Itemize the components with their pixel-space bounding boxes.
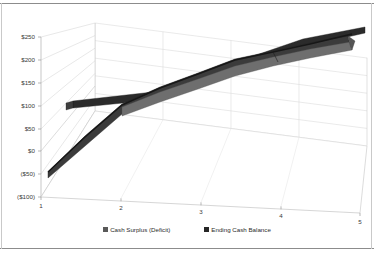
y-tick-label: $50: [25, 125, 36, 132]
x-tick-label: 1: [39, 202, 43, 209]
y-tick-label: $200: [21, 56, 35, 63]
legend-swatch-icon: [103, 227, 108, 232]
x-tick-label: 2: [119, 204, 123, 211]
y-tick-label: $150: [21, 79, 35, 86]
legend-label: Cash Surplus (Deficit): [110, 227, 170, 233]
y-tick-label: $0: [28, 147, 35, 154]
chart-legend: Cash Surplus (Deficit) Ending Cash Balan…: [0, 224, 374, 236]
x-tick-label: 4: [279, 212, 283, 219]
y-axis-labels: $250 $200 $150 $100 $50 $0 ($50) ($100): [17, 33, 35, 200]
legend-swatch-icon: [204, 227, 209, 232]
legend-label: Ending Cash Balance: [211, 227, 271, 233]
y-tick-label: $100: [21, 102, 35, 109]
legend-item-ending-cash-balance[interactable]: Ending Cash Balance: [204, 227, 271, 233]
x-tick-label: 3: [199, 208, 203, 215]
chart-plot-area: $250 $200 $150 $100 $50 $0 ($50) ($100) …: [0, 0, 374, 255]
y-tick-label: $250: [21, 33, 35, 40]
legend-item-cash-surplus[interactable]: Cash Surplus (Deficit): [103, 227, 170, 233]
chart-container: $250 $200 $150 $100 $50 $0 ($50) ($100) …: [0, 0, 374, 255]
y-tick-label: ($100): [17, 193, 35, 200]
y-axis-ticks: [38, 37, 41, 197]
y-tick-label: ($50): [21, 170, 35, 177]
